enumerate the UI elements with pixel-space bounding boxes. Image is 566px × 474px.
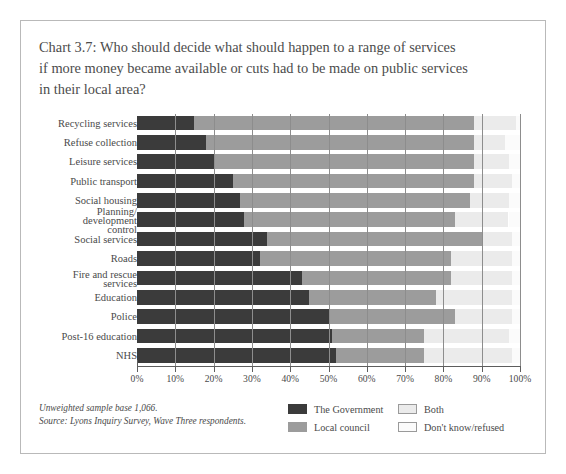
x-axis-tick-labels: 0%10%20%30%40%50%60%70%80%90%100% <box>137 373 520 387</box>
legend-swatch-local-council-icon <box>288 422 307 432</box>
bar-row-label: Social services <box>74 235 137 245</box>
bar-segment-dont-know <box>512 232 520 247</box>
bar-segment-both <box>455 212 509 227</box>
x-axis-tick <box>443 366 444 372</box>
bar-row: Post-16 education <box>33 327 533 346</box>
bar-track <box>137 135 520 150</box>
x-axis-tick-label: 20% <box>205 373 223 384</box>
bar-segment-government <box>137 329 332 344</box>
footnote-sample-base: Unweighted sample base 1,066. <box>39 402 246 415</box>
bar-segment-both <box>455 309 512 324</box>
chart-title-line-2: if more money became available or cuts h… <box>39 58 515 79</box>
x-axis-tick-label: 100% <box>509 373 531 384</box>
bar-track <box>137 251 520 266</box>
bar-segment-local-council <box>206 135 474 150</box>
bar-segment-local-council <box>214 154 474 169</box>
bar-segment-local-council <box>194 116 474 131</box>
bar-row: Refuse collection <box>33 133 533 152</box>
chart-footnotes: Unweighted sample base 1,066. Source: Ly… <box>39 402 246 427</box>
bar-row-label: Roads <box>111 255 137 265</box>
x-axis-tick-label: 90% <box>473 373 491 384</box>
bar-segment-dont-know <box>512 290 520 305</box>
x-axis-tick-label: 0% <box>131 373 144 384</box>
legend-swatch-government-icon <box>288 404 307 414</box>
legend-column-left: The Government Local council <box>288 402 383 438</box>
bar-segment-dont-know <box>512 309 520 324</box>
x-axis-tick-label: 70% <box>396 373 414 384</box>
bar-track <box>137 290 520 305</box>
chart-frame: Chart 3.7: Who should decide what should… <box>20 20 546 454</box>
bar-segment-dont-know <box>512 348 520 363</box>
chart-page: Chart 3.7: Who should decide what should… <box>0 0 566 474</box>
bar-track <box>137 271 520 286</box>
bar-row-label: Public transport <box>70 177 137 187</box>
bar-segment-government <box>137 174 233 189</box>
bar-segment-government <box>137 154 214 169</box>
bar-segment-local-council <box>233 174 474 189</box>
bar-row: Social services <box>33 230 533 249</box>
bar-segment-government <box>137 271 302 286</box>
bar-row-label: Refuse collection <box>64 138 137 148</box>
bar-segment-local-council <box>260 251 452 266</box>
legend-item-government: The Government <box>288 402 383 416</box>
bar-segment-both <box>470 193 508 208</box>
bar-row: NHS <box>33 347 533 366</box>
bar-row: Leisure services <box>33 153 533 172</box>
bar-segment-both <box>474 135 505 150</box>
legend-label-local-council: Local council <box>314 422 370 433</box>
x-axis-tick-label: 10% <box>167 373 185 384</box>
x-axis-tick-label: 80% <box>435 373 453 384</box>
bar-segment-both <box>424 348 512 363</box>
bar-row: Public transport <box>33 172 533 191</box>
legend-swatch-both-icon <box>398 404 417 414</box>
bar-row-label: Recycling services <box>58 119 137 129</box>
bar-segment-local-council <box>332 329 424 344</box>
bar-row: Fire and rescueservices <box>33 269 533 288</box>
x-axis-tick <box>329 366 330 372</box>
bar-row: Planning/developmentcontrol <box>33 211 533 230</box>
x-axis-tick <box>175 366 176 372</box>
chart-title-line-3: in their local area? <box>39 79 515 100</box>
bar-segment-local-council <box>329 309 455 324</box>
bar-row-label: Education <box>94 293 137 303</box>
bar-segment-local-council <box>240 193 470 208</box>
legend-label-both: Both <box>424 404 444 415</box>
bar-segment-dont-know <box>512 271 520 286</box>
bar-row: Education <box>33 288 533 307</box>
bar-segment-dont-know <box>509 329 520 344</box>
bar-segment-both <box>482 232 513 247</box>
bar-track <box>137 309 520 324</box>
bar-row-label: Leisure services <box>69 158 137 168</box>
x-axis-tick-label: 30% <box>243 373 261 384</box>
x-axis-tick <box>252 366 253 372</box>
bar-segment-local-council <box>336 348 424 363</box>
bar-track <box>137 232 520 247</box>
bar-segment-both <box>474 116 516 131</box>
x-axis-tick <box>214 366 215 372</box>
bar-track <box>137 174 520 189</box>
x-axis-tick <box>367 366 368 372</box>
bar-segment-dont-know <box>512 251 520 266</box>
legend-swatch-dont-know-icon <box>398 422 417 432</box>
bar-segment-local-council <box>267 232 481 247</box>
bar-segment-local-council <box>309 290 435 305</box>
bar-segment-government <box>137 212 244 227</box>
legend-label-government: The Government <box>314 404 383 415</box>
bar-track <box>137 116 520 131</box>
x-axis-tick <box>520 366 521 372</box>
bar-row-label: Fire and rescueservices <box>73 269 137 287</box>
bar-track <box>137 348 520 363</box>
bar-segment-both <box>474 174 512 189</box>
legend-item-dont-know: Don't know/refused <box>398 420 504 434</box>
bar-segment-dont-know <box>509 154 520 169</box>
bar-segment-local-council <box>244 212 455 227</box>
bar-segment-dont-know <box>516 116 520 131</box>
bar-segment-government <box>137 116 194 131</box>
bar-segment-both <box>424 329 508 344</box>
bar-segment-government <box>137 348 336 363</box>
bar-segment-government <box>137 309 329 324</box>
bar-row-label: Post-16 education <box>61 332 137 342</box>
bar-segment-both <box>474 154 508 169</box>
bar-row-label: Police <box>111 313 137 323</box>
bar-segment-government <box>137 251 260 266</box>
